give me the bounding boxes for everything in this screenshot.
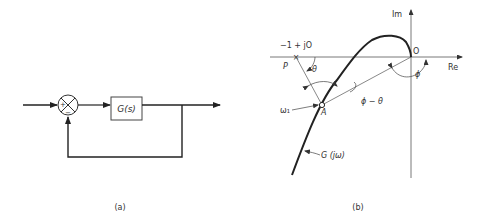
im-axis-label: Im xyxy=(392,10,402,19)
omega-pointer xyxy=(292,105,318,110)
angle-phi-label: ϕ xyxy=(415,70,421,79)
sum-minus-sign: − xyxy=(65,109,71,117)
nyquist-plot: Im Re O × −1 + jO P A ω₁ G (jω) θ ϕ ϕ − … xyxy=(270,10,462,212)
frequency-response-curve xyxy=(292,36,411,175)
summing-junction: + − xyxy=(58,95,78,117)
angle-phi-minus-theta-label: ϕ − θ xyxy=(361,97,383,106)
sum-plus-sign: + xyxy=(60,101,66,109)
angle-phi-arc xyxy=(392,60,426,77)
origin-label: O xyxy=(413,47,419,56)
block-diagram: + − G(s) (a) xyxy=(23,95,220,212)
point-a-marker xyxy=(319,102,324,107)
point-p-label: P xyxy=(283,62,288,71)
figure-canvas: + − G(s) (a) Im Re O × −1 + jO P A ω₁ xyxy=(0,0,478,224)
caption-b: (b) xyxy=(352,203,363,212)
omega-label: ω₁ xyxy=(280,106,290,115)
curve-label: G (jω) xyxy=(321,151,345,160)
point-p-value: −1 + jO xyxy=(280,41,312,50)
block-label: G(s) xyxy=(117,104,136,114)
point-a-label: A xyxy=(320,108,326,117)
re-axis-label: Re xyxy=(448,63,458,72)
caption-a: (a) xyxy=(114,203,125,212)
angle-theta-label: θ xyxy=(312,65,317,74)
line-p-to-a xyxy=(296,57,322,105)
curve-label-pointer xyxy=(305,151,320,155)
